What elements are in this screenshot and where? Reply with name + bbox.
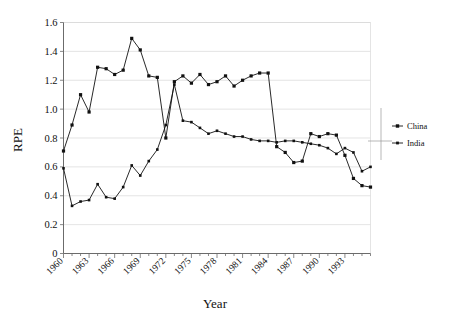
data-point-china (181, 74, 184, 77)
data-point-china (130, 37, 133, 40)
data-point-china (173, 80, 176, 83)
data-point-china (250, 74, 253, 77)
gridlines-group (64, 23, 371, 225)
y-tick-label: 1.6 (44, 17, 57, 28)
data-point-china (190, 82, 193, 85)
data-point-china (96, 66, 99, 69)
data-point-china (343, 154, 346, 157)
y-tick-label: 0.6 (44, 161, 57, 172)
data-point-india (369, 166, 372, 169)
data-point-india (207, 132, 210, 135)
data-point-india (105, 196, 108, 199)
data-point-china (156, 76, 159, 79)
data-point-india (96, 183, 99, 186)
series-line-china (64, 38, 371, 187)
data-point-china (164, 136, 167, 139)
data-point-china (267, 71, 270, 74)
data-point-india (139, 174, 142, 177)
data-point-india (79, 200, 82, 203)
x-tick-label: 1972 (147, 256, 168, 277)
data-point-india (258, 140, 261, 143)
data-point-china (335, 134, 338, 137)
data-point-china (275, 145, 278, 148)
data-point-india (335, 153, 338, 156)
data-point-india (250, 138, 253, 141)
data-point-india (113, 197, 116, 200)
legend-label-china: China (407, 121, 428, 131)
y-tick-label: 1.0 (44, 104, 57, 115)
series-line-india (64, 85, 371, 206)
data-point-india (301, 141, 304, 144)
data-point-china (301, 160, 304, 163)
x-tick-labels-group: 1960196319661969197219751978198119841987… (44, 256, 346, 277)
x-tick-label: 1963 (70, 256, 91, 277)
data-point-china (309, 132, 312, 135)
y-tick-label: 1.2 (44, 75, 57, 86)
legend-item-india[interactable]: India (392, 138, 425, 148)
data-point-china (207, 83, 210, 86)
chart-legend: ChinaIndia (368, 108, 428, 160)
data-point-india (190, 121, 193, 124)
data-point-india (71, 205, 74, 208)
x-tick-label: 1981 (223, 256, 244, 277)
data-point-india (130, 164, 133, 167)
data-point-india (267, 140, 270, 143)
x-tick-label: 1969 (121, 256, 142, 277)
data-series-group (62, 37, 372, 207)
x-tick-label: 1960 (44, 256, 65, 277)
y-tick-label: 0.2 (44, 219, 57, 230)
data-point-china (139, 48, 142, 51)
y-tick-label: 0.8 (44, 133, 57, 144)
y-tick-label: 0.4 (44, 190, 58, 201)
series-china (62, 37, 372, 189)
y-tick-label: 1.4 (44, 46, 58, 57)
x-tick-label: 1993 (326, 256, 347, 277)
data-point-china (292, 161, 295, 164)
data-point-china (224, 74, 227, 77)
data-point-india (173, 83, 176, 86)
data-point-china (215, 80, 218, 83)
data-point-india (122, 186, 125, 189)
data-point-china (284, 151, 287, 154)
chart-container: 00.20.40.60.81.01.21.41.6 19601963196619… (0, 0, 455, 319)
series-india (62, 83, 372, 207)
data-point-india (199, 127, 202, 130)
data-point-china (113, 73, 116, 76)
data-point-india (62, 167, 65, 170)
data-point-china (198, 73, 201, 76)
data-point-india (275, 141, 278, 144)
data-point-china (105, 67, 108, 70)
data-point-china (87, 110, 90, 113)
x-tick-label: 1975 (172, 256, 193, 277)
data-point-india (292, 140, 295, 143)
data-point-india (182, 119, 185, 122)
data-point-india (224, 132, 227, 135)
x-axis-title: Year (203, 296, 228, 311)
x-tick-label: 1984 (249, 256, 270, 277)
data-point-india (344, 147, 347, 150)
x-tick-label: 1987 (275, 256, 296, 277)
y-tick-labels-group: 00.20.40.60.81.01.21.41.6 (44, 17, 58, 259)
legend-label-india: India (407, 138, 425, 148)
x-tick-label: 1990 (300, 256, 321, 277)
data-point-china (369, 185, 372, 188)
data-point-india (327, 147, 330, 150)
data-point-china (360, 184, 363, 187)
data-point-china (258, 71, 261, 74)
data-point-china (241, 79, 244, 82)
legend-marker-china (396, 124, 399, 127)
data-point-china (62, 149, 65, 152)
data-point-india (147, 160, 150, 163)
data-point-india (156, 148, 159, 151)
y-tickmarks-group (60, 23, 64, 254)
legend-item-china[interactable]: China (392, 121, 428, 131)
data-point-india (284, 140, 287, 143)
data-point-india (361, 170, 364, 173)
rpe-line-chart: 00.20.40.60.81.01.21.41.6 19601963196619… (0, 0, 455, 319)
data-point-india (233, 135, 236, 138)
data-point-china (147, 74, 150, 77)
data-point-india (241, 135, 244, 138)
data-point-india (352, 151, 355, 154)
data-point-china (79, 93, 82, 96)
y-axis-title: RPE (10, 128, 25, 152)
